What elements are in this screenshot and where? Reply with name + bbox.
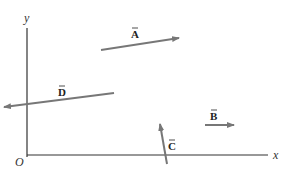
origin-label: O: [15, 155, 24, 169]
y-axis-label: y: [23, 11, 30, 25]
vector-a: A: [101, 28, 179, 50]
vector-d-label: D: [58, 86, 66, 98]
x-axis-label: x: [272, 148, 279, 162]
vector-a-label: A: [131, 28, 139, 40]
vector-b: B: [205, 110, 234, 125]
vector-c-label: C: [168, 140, 176, 152]
vector-d: D: [4, 86, 114, 107]
vector-b-label: B: [210, 110, 218, 122]
vector-c-arrow: [160, 124, 167, 164]
vector-diagram: y x O A B C D: [0, 0, 299, 175]
vector-c: C: [160, 124, 176, 164]
vector-a-arrow: [101, 38, 179, 50]
